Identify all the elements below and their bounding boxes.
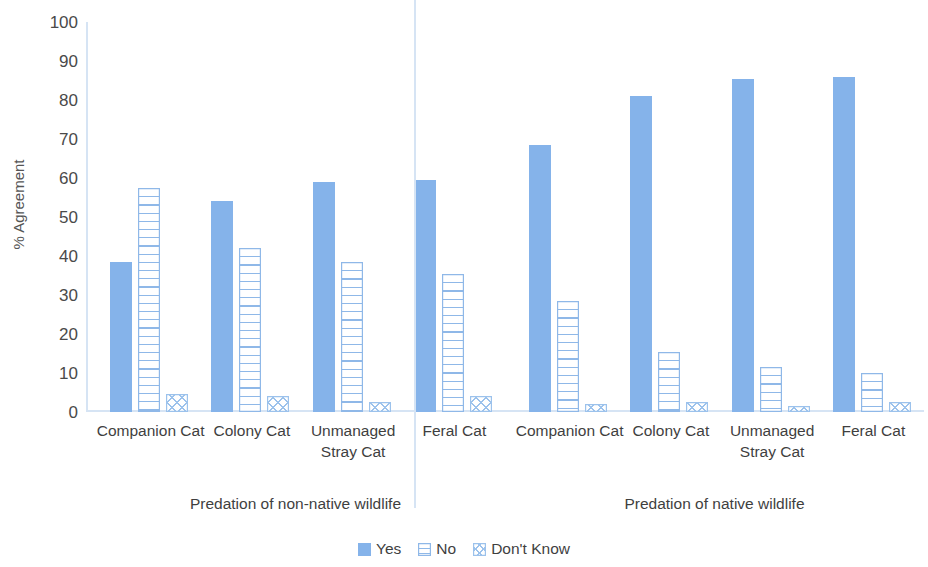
bar-no[interactable] [658,352,680,412]
bar-yes[interactable] [110,262,132,412]
legend-swatch-dk-icon [473,543,486,556]
bar-yes[interactable] [313,182,335,412]
legend-label: No [436,540,456,558]
bar-no[interactable] [442,274,464,412]
y-axis-tick-labels: 1009080706050403020100 [26,0,78,430]
y-axis-tick-40: 40 [26,248,78,265]
bar-group-2 [505,22,924,412]
legend-item-yes[interactable]: Yes [358,540,401,558]
plot-area [86,22,924,412]
x-axis-label: Feral Cat [815,420,928,441]
bar-no[interactable] [557,301,579,412]
category-bars [519,22,620,412]
x-axis-label: Companion Cat [92,420,209,441]
x-axis-label: Feral Cat [396,420,513,441]
category-bars [404,22,505,412]
x-axis-label: Unmanaged Stray Cat [295,420,412,462]
legend-swatch-yes-icon [358,543,371,556]
bar-no[interactable] [138,188,160,412]
category-bars [201,22,302,412]
legend-item-dk[interactable]: Don't Know [473,540,570,558]
legend-item-no[interactable]: No [418,540,456,558]
bar-dk[interactable] [267,396,289,412]
bar-yes[interactable] [833,77,855,412]
bar-yes[interactable] [732,79,754,412]
bar-yes[interactable] [630,96,652,412]
legend-swatch-no-icon [418,543,431,556]
bar-yes[interactable] [211,201,233,412]
y-axis-tick-20: 20 [26,326,78,343]
x-axis-group-labels: Predation of non-native wildlifePredatio… [86,495,924,523]
chart-legend: YesNoDon't Know [0,540,928,558]
y-axis-title: % Agreement [10,125,27,285]
bar-group-1 [86,22,505,412]
bar-dk[interactable] [585,404,607,412]
bar-dk[interactable] [686,402,708,412]
bar-no[interactable] [341,262,363,412]
bar-yes[interactable] [414,180,436,412]
x-axis-category-labels: Companion CatColony CatUnmanaged Stray C… [86,420,924,482]
bar-dk[interactable] [369,402,391,412]
bar-dk[interactable] [889,402,911,412]
bar-yes[interactable] [529,145,551,412]
category-bars [620,22,721,412]
y-axis-tick-80: 80 [26,92,78,109]
bar-chart: % Agreement 1009080706050403020100 Compa… [0,0,928,567]
category-bars [823,22,924,412]
y-axis-tick-30: 30 [26,287,78,304]
y-axis-tick-50: 50 [26,209,78,226]
bar-dk[interactable] [470,396,492,412]
group-label: Predation of native wildlife [505,495,924,513]
group-label: Predation of non-native wildlife [86,495,505,513]
bar-dk[interactable] [788,406,810,412]
bar-no[interactable] [861,373,883,412]
bar-dk[interactable] [166,394,188,412]
y-axis-tick-0: 0 [26,404,78,421]
y-axis-tick-10: 10 [26,365,78,382]
bar-no[interactable] [760,367,782,412]
x-axis-label: Companion Cat [511,420,628,441]
legend-label: Don't Know [491,540,570,558]
x-axis-label: Colony Cat [612,420,729,441]
y-axis-tick-60: 60 [26,170,78,187]
y-axis-tick-90: 90 [26,53,78,70]
category-bars [722,22,823,412]
legend-label: Yes [376,540,401,558]
y-axis-tick-70: 70 [26,131,78,148]
category-bars [303,22,404,412]
category-bars [100,22,201,412]
bars-layer [86,22,924,412]
y-axis-tick-100: 100 [26,14,78,31]
bar-no[interactable] [239,248,261,412]
x-axis-label: Colony Cat [193,420,310,441]
x-axis-label: Unmanaged Stray Cat [714,420,831,462]
